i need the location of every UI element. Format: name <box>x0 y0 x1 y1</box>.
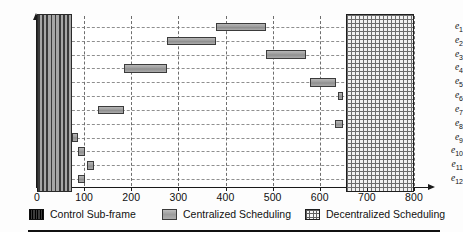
y-axis-label-e2: e2 <box>429 35 463 47</box>
x-tick-label-500: 500 <box>253 191 293 203</box>
y-label-subscript: 10 <box>455 150 463 157</box>
task-bar-e3 <box>266 50 306 59</box>
y-label-subscript: 9 <box>459 136 463 143</box>
y-axis-label-e9: e9 <box>429 132 463 144</box>
control-sub-frame-block <box>37 14 72 192</box>
y-axis-label-e10: e10 <box>429 145 463 157</box>
legend-item-0[interactable]: Control Sub-frame <box>29 203 136 225</box>
screenshot-root: e1e2e3e4e5e6e7e8e9e10e11e12 010020030040… <box>0 0 463 239</box>
legend-item-1[interactable]: Centralized Scheduling <box>162 203 291 225</box>
y-axis-label-e8: e8 <box>429 118 463 130</box>
legend: Control Sub-frameCentralized SchedulingD… <box>0 203 463 225</box>
decentralized-scheduling-block <box>346 14 414 192</box>
y-label-subscript: 8 <box>459 123 463 130</box>
gridline-x-100 <box>84 16 85 186</box>
legend-item-label: Control Sub-frame <box>50 208 136 220</box>
gray-fill-swatch-icon <box>162 209 177 220</box>
plot-area <box>37 20 414 186</box>
gantt-figure: e1e2e3e4e5e6e7e8e9e10e11e12 010020030040… <box>0 0 463 232</box>
y-axis-label-e12: e12 <box>429 173 463 185</box>
task-bar-e4 <box>124 64 166 73</box>
y-axis-label-e7: e7 <box>429 104 463 116</box>
y-label-subscript: 4 <box>459 67 463 74</box>
y-axis-label-e1: e1 <box>429 21 463 33</box>
task-bar-e2 <box>167 37 216 46</box>
task-bar-e10 <box>78 147 84 156</box>
task-bar-e8 <box>335 120 343 129</box>
bottom-horizontal-rule <box>28 230 440 232</box>
dark-striped-swatch-icon <box>29 209 44 220</box>
y-label-subscript: 3 <box>459 53 463 60</box>
y-axis-label-e11: e11 <box>429 159 463 171</box>
gridline-x-600 <box>320 16 321 186</box>
task-bar-e11 <box>87 161 94 170</box>
x-tick-label-100: 100 <box>64 191 104 203</box>
gridline-x-200 <box>131 16 132 186</box>
gridline-x-400 <box>226 16 227 186</box>
legend-item-2[interactable]: Decentralized Scheduling <box>305 203 445 225</box>
y-label-subscript: 12 <box>455 178 463 185</box>
task-bar-e12 <box>78 175 84 184</box>
y-label-subscript: 5 <box>459 81 463 88</box>
x-tick-label-300: 300 <box>158 191 198 203</box>
x-tick-label-400: 400 <box>206 191 246 203</box>
y-axis-label-e5: e5 <box>429 76 463 88</box>
task-bar-e6 <box>338 92 344 101</box>
cross-hatch-swatch-icon <box>305 209 320 220</box>
task-bar-e7 <box>98 106 124 115</box>
legend-item-label: Centralized Scheduling <box>183 208 291 220</box>
y-label-subscript: 11 <box>456 164 463 171</box>
x-tick-label-600: 600 <box>300 191 340 203</box>
task-bar-e1 <box>216 23 265 32</box>
x-tick-label-700: 700 <box>347 191 387 203</box>
y-axis-label-e3: e3 <box>429 49 463 61</box>
y-axis-label-e4: e4 <box>429 62 463 74</box>
x-tick-label-200: 200 <box>111 191 151 203</box>
y-label-subscript: 7 <box>459 109 463 116</box>
y-label-subscript: 6 <box>459 95 463 102</box>
gridline-x-500 <box>273 16 274 186</box>
task-bar-e5 <box>310 78 336 87</box>
y-axis-label-e6: e6 <box>429 90 463 102</box>
legend-item-label: Decentralized Scheduling <box>326 208 445 220</box>
x-tick-label-0: 0 <box>17 191 57 203</box>
x-tick-label-800: 800 <box>394 191 434 203</box>
task-bar-e9 <box>72 133 78 142</box>
y-label-subscript: 2 <box>459 40 463 47</box>
y-label-subscript: 1 <box>459 26 463 33</box>
gridline-x-800 <box>414 16 415 186</box>
